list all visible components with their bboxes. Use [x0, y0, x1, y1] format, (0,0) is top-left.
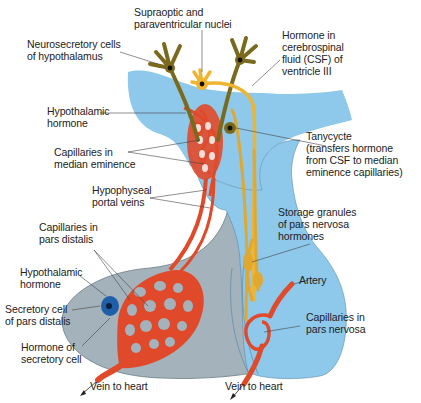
label-capillaries-pars-distalis: Capillaries in pars distalis: [39, 221, 98, 245]
label-vein-to-heart-left: Vein to heart: [90, 380, 148, 392]
label-capillaries-median-eminence: Capillaries in median eminence: [54, 146, 135, 170]
label-supraoptic-nuclei: Supraoptic and paraventricular nuclei: [134, 6, 232, 30]
label-hormone-secretory-cell: Hormone of secretory cell: [21, 341, 81, 365]
label-neurosecretory-cells: Neurosecretory cells of hypothalamus: [27, 38, 121, 62]
label-portal-veins: Hypophyseal portal veins: [92, 184, 152, 208]
label-vein-to-heart-right: Vein to heart: [225, 380, 283, 392]
label-hypothalamic-hormone-bottom: Hypothalamic hormone: [20, 266, 82, 290]
label-artery: Artery: [299, 274, 326, 286]
label-hypothalamic-hormone-top: Hypothalamic hormone: [47, 105, 109, 129]
label-tanycyte: Tanycycte (transfers hormone from CSF to…: [306, 130, 403, 178]
storage-granules: [243, 252, 253, 272]
hypophysis-diagram: Supraoptic and paraventricular nuclei Ne…: [0, 0, 421, 403]
label-secretory-cell: Secretory cell of pars distalis: [5, 303, 71, 327]
label-storage-granules: Storage granules of pars nervosa hormone…: [278, 206, 356, 242]
label-hormone-in-csf: Hormone in cerebrospinal fluid (CSF) of …: [282, 29, 344, 77]
label-capillaries-pars-nervosa: Capillaries in pars nervosa: [306, 311, 366, 335]
